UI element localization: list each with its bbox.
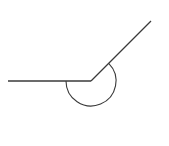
angle-figure <box>0 0 169 146</box>
diagonal-ray <box>91 21 151 81</box>
angle-diagram <box>0 0 169 146</box>
reflex-angle-arc <box>66 63 116 106</box>
